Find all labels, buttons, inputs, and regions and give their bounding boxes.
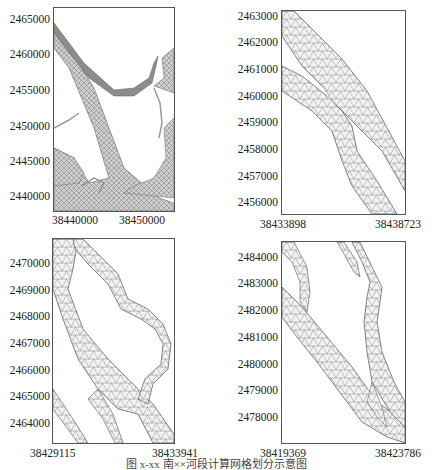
y-tick-label: 2470000 [0, 257, 50, 269]
y-tick-label: 2465000 [0, 13, 50, 25]
y-tick-label: 2467000 [0, 337, 50, 349]
y-tick-label: 2461000 [228, 63, 278, 75]
y-tick-label: 2480000 [228, 358, 278, 370]
plot-area [281, 241, 406, 444]
plot-area [53, 7, 175, 212]
y-tick-label: 2458000 [228, 143, 278, 155]
y-tick-label: 2484000 [228, 251, 278, 263]
y-tick-label: 2478000 [228, 411, 278, 423]
y-tick-label: 2445000 [0, 155, 50, 167]
y-tick-label: 2465000 [0, 390, 50, 402]
y-tick-label: 2460000 [228, 90, 278, 102]
y-tick-label: 2481000 [228, 331, 278, 343]
y-tick-label: 2463000 [228, 10, 278, 22]
y-tick-label: 2457000 [228, 170, 278, 182]
figure-caption: 图 x-xx 南××河段计算网格划分示意图 [0, 455, 433, 470]
y-tick-label: 2483000 [228, 277, 278, 289]
y-tick-label: 2450000 [0, 120, 50, 132]
x-tick-label: 38450000 [119, 214, 165, 226]
y-tick-label: 2462000 [228, 36, 278, 48]
y-tick-label: 2479000 [228, 384, 278, 396]
y-tick-label: 2469000 [0, 284, 50, 296]
y-tick-label: 2456000 [228, 196, 278, 208]
y-tick-label: 2464000 [0, 417, 50, 429]
x-tick-label: 38440000 [52, 214, 98, 226]
y-tick-label: 2468000 [0, 310, 50, 322]
y-tick-label: 2440000 [0, 190, 50, 202]
plot-area [281, 10, 406, 215]
y-tick-label: 2455000 [0, 84, 50, 96]
y-tick-label: 2482000 [228, 304, 278, 316]
y-tick-label: 2459000 [228, 116, 278, 128]
y-tick-label: 2460000 [0, 48, 50, 60]
y-tick-label: 2466000 [0, 364, 50, 376]
plot-area [52, 238, 175, 444]
x-tick-label: 38433898 [260, 218, 306, 230]
x-tick-label: 38438723 [375, 218, 421, 230]
